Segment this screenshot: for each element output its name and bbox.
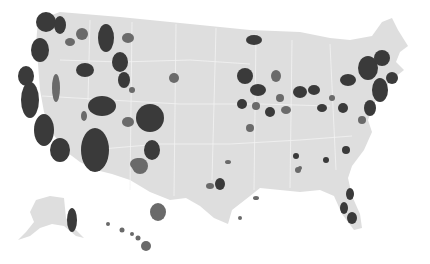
county-region xyxy=(21,82,39,118)
county-region xyxy=(372,78,388,102)
county-region xyxy=(50,138,70,162)
county-region xyxy=(265,107,275,117)
county-region xyxy=(112,52,128,72)
county-region xyxy=(246,35,262,45)
county-region xyxy=(150,203,166,221)
county-region xyxy=(122,33,134,43)
county-region xyxy=(34,114,54,146)
county-region xyxy=(169,73,179,83)
county-region xyxy=(358,116,366,124)
county-region xyxy=(342,146,350,154)
county-region xyxy=(76,63,94,77)
county-region xyxy=(129,87,135,93)
county-region xyxy=(340,74,356,86)
county-region xyxy=(293,153,299,159)
county-region xyxy=(347,212,357,224)
county-region xyxy=(52,74,60,102)
county-region xyxy=(308,85,320,95)
county-region xyxy=(215,178,225,190)
county-region xyxy=(238,216,242,220)
county-region xyxy=(329,95,335,101)
county-region xyxy=(317,104,327,112)
county-region xyxy=(88,96,116,116)
county-region xyxy=(374,50,390,66)
county-region xyxy=(298,166,302,170)
hawaii-island xyxy=(130,232,134,236)
county-region xyxy=(65,38,75,46)
county-region xyxy=(225,160,231,164)
hawaii-island xyxy=(120,228,125,233)
county-region xyxy=(250,84,266,96)
county-region xyxy=(340,202,348,214)
county-region xyxy=(237,68,253,84)
us-choropleth-map xyxy=(0,0,430,264)
county-region xyxy=(364,100,376,116)
county-region xyxy=(252,102,260,110)
county-region xyxy=(144,140,160,160)
county-region xyxy=(122,117,134,127)
county-region xyxy=(338,103,348,113)
hawaii-island xyxy=(141,241,151,251)
county-region xyxy=(98,24,114,52)
county-region xyxy=(81,111,87,121)
hawaii-island xyxy=(106,222,110,226)
county-region xyxy=(293,86,307,98)
county-region xyxy=(54,16,66,34)
county-region xyxy=(237,99,247,109)
county-region xyxy=(276,94,284,102)
county-region xyxy=(253,196,259,200)
county-region xyxy=(130,158,146,170)
county-region xyxy=(206,183,214,189)
county-region xyxy=(346,188,354,200)
county-region xyxy=(136,104,164,132)
county-region xyxy=(271,70,281,82)
county-region xyxy=(118,72,130,88)
hawaii-islands xyxy=(106,222,151,251)
hawaii-island xyxy=(136,236,141,241)
county-region xyxy=(323,157,329,163)
county-region xyxy=(76,28,88,40)
county-region xyxy=(67,208,77,232)
county-region xyxy=(31,38,49,62)
county-region xyxy=(281,106,291,114)
county-region xyxy=(81,128,109,172)
county-region xyxy=(36,12,56,32)
county-region xyxy=(246,124,254,132)
county-region xyxy=(386,72,398,84)
